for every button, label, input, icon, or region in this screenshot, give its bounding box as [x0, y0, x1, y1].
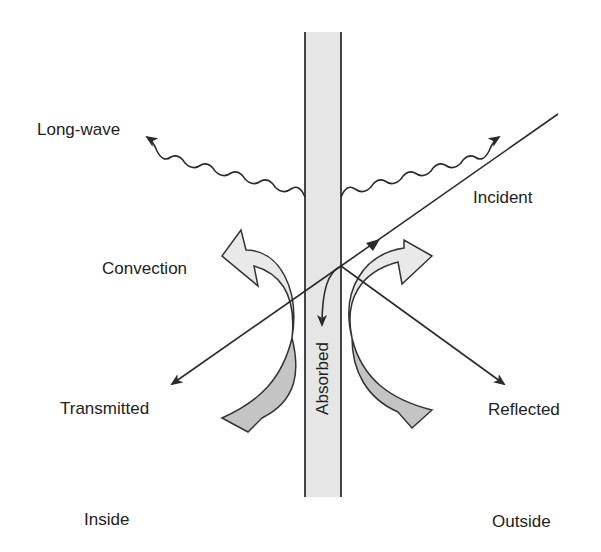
- label-transmitted: Transmitted: [60, 400, 149, 417]
- reflected-ray: [341, 266, 504, 384]
- heat-transfer-diagram: Long-wave Incident Convection Transmitte…: [0, 0, 601, 552]
- wall: [305, 32, 341, 497]
- label-absorbed: Absorbed: [314, 339, 331, 419]
- convection-right-arrow: [349, 240, 432, 428]
- long-wave-left-arrow: [147, 137, 305, 197]
- convection-left-arrow: [222, 230, 296, 432]
- label-outside: Outside: [492, 513, 551, 530]
- label-reflected: Reflected: [488, 401, 560, 418]
- label-convection: Convection: [102, 260, 187, 277]
- label-incident: Incident: [473, 189, 533, 206]
- label-long-wave: Long-wave: [37, 121, 120, 138]
- incident-arrowhead-icon: [366, 239, 380, 251]
- diagram-canvas: [0, 0, 601, 552]
- label-inside: Inside: [84, 511, 129, 528]
